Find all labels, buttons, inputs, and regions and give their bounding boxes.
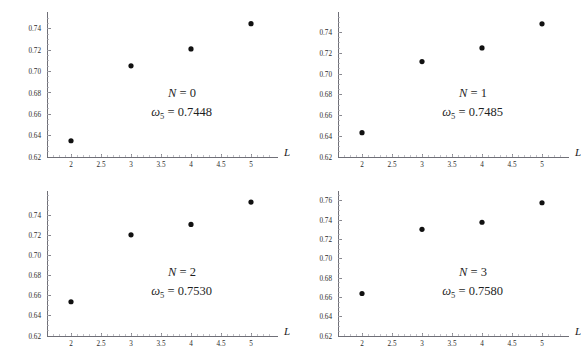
figure-root: 0.620.640.660.680.700.720.7422.533.544.5… [0, 0, 581, 357]
annotation-N-equals: = [467, 265, 480, 279]
data-point-series [68, 199, 253, 304]
y-axis: 0.620.640.660.680.700.720.740.76 [319, 191, 341, 341]
annotation-N-equals: = [176, 86, 189, 100]
y-tick-label: 0.62 [28, 154, 41, 162]
y-tick-label: 0.68 [28, 272, 41, 280]
annotation-omega-value: 0.7530 [178, 284, 212, 298]
y-tick-label: 0.66 [319, 294, 332, 302]
y-tick-label: 0.64 [28, 132, 41, 140]
panel-annotation: N = 1ω5 = 0.7485 [442, 86, 503, 121]
y-tick-label: 0.72 [28, 232, 41, 240]
x-tick-label: 3.5 [448, 161, 457, 169]
panel-annotation: N = 3ω5 = 0.7580 [442, 265, 503, 300]
annotation-omega-equals: = [455, 284, 468, 298]
y-tick-label: 0.62 [319, 333, 332, 341]
annotation-omega-equals: = [164, 284, 177, 298]
annotation-N-value: 2 [190, 265, 196, 279]
data-point [248, 199, 253, 204]
annotation-omega-symbol: ω [151, 105, 160, 119]
y-tick-label: 0.72 [319, 236, 332, 244]
x-tick-label: 4 [480, 340, 484, 348]
annotation-omega-equals: = [455, 105, 468, 119]
annotation-N: N = 1 [458, 86, 487, 100]
y-tick-label: 0.76 [319, 197, 332, 205]
x-axis: 22.533.544.55L [47, 325, 290, 348]
x-tick-label: 3 [420, 161, 424, 169]
y-tick-label: 0.74 [28, 212, 41, 220]
x-tick-label: 2 [69, 161, 73, 169]
x-tick-label: 2 [360, 161, 364, 169]
annotation-omega: ω5 = 0.7530 [151, 284, 212, 300]
x-axis: 22.533.544.55L [338, 146, 581, 169]
x-tick-label: 5 [540, 161, 544, 169]
y-tick-label: 0.64 [319, 133, 332, 141]
annotation-N-value: 0 [190, 86, 196, 100]
x-tick-label: 3.5 [448, 340, 457, 348]
annotation-omega-value: 0.7580 [469, 284, 503, 298]
x-axis-label: L [574, 146, 581, 158]
x-axis-label: L [574, 325, 581, 337]
y-tick-label: 0.74 [28, 25, 41, 33]
y-tick-label: 0.62 [28, 333, 41, 341]
data-point [128, 63, 133, 68]
y-tick-label: 0.66 [28, 111, 41, 119]
data-point-series [68, 21, 253, 143]
y-tick-label: 0.64 [28, 312, 41, 320]
x-tick-label: 5 [540, 340, 544, 348]
data-point [359, 130, 364, 135]
annotation-omega-symbol: ω [442, 105, 451, 119]
x-tick-label: 2.5 [388, 161, 397, 169]
y-tick-label: 0.70 [319, 71, 332, 79]
y-tick-label: 0.74 [319, 29, 332, 37]
scatter-panel-2: 0.620.640.660.680.700.720.7422.533.544.5… [0, 179, 290, 357]
y-tick-label: 0.68 [319, 91, 332, 99]
scatter-panel-3: 0.620.640.660.680.700.720.740.7622.533.5… [291, 179, 581, 357]
data-point [188, 222, 193, 227]
y-tick-label: 0.70 [319, 255, 332, 263]
annotation-N: N = 3 [458, 265, 487, 279]
data-point [419, 227, 424, 232]
panel-annotation: N = 0ω5 = 0.7448 [151, 86, 212, 121]
y-axis: 0.620.640.660.680.700.720.74 [319, 12, 341, 162]
y-tick-label: 0.74 [319, 217, 332, 225]
annotation-omega-equals: = [164, 105, 177, 119]
data-point [479, 45, 484, 50]
annotation-omega-value: 0.7485 [469, 105, 503, 119]
data-point [419, 59, 424, 64]
y-tick-label: 0.72 [28, 47, 41, 55]
x-tick-label: 2 [69, 340, 73, 348]
x-axis-label: L [283, 325, 290, 337]
x-axis-label: L [283, 146, 290, 158]
x-tick-label: 2.5 [388, 340, 397, 348]
data-point [479, 220, 484, 225]
y-tick-label: 0.66 [319, 112, 332, 120]
y-tick-label: 0.70 [28, 252, 41, 260]
annotation-omega: ω5 = 0.7448 [151, 105, 212, 121]
annotation-omega: ω5 = 0.7580 [442, 284, 503, 300]
x-tick-label: 4 [480, 161, 484, 169]
data-point [359, 291, 364, 296]
x-tick-label: 3.5 [157, 161, 166, 169]
annotation-N-value: 3 [481, 265, 487, 279]
y-tick-label: 0.62 [319, 154, 332, 162]
y-axis: 0.620.640.660.680.700.720.74 [28, 191, 50, 341]
data-point [188, 46, 193, 51]
annotation-N-value: 1 [481, 86, 487, 100]
x-tick-label: 4 [189, 161, 193, 169]
x-axis: 22.533.544.55L [47, 146, 290, 169]
x-tick-label: 4.5 [508, 340, 517, 348]
x-tick-label: 4.5 [508, 161, 517, 169]
x-tick-label: 5 [249, 161, 253, 169]
data-point [68, 299, 73, 304]
annotation-N-equals: = [467, 86, 480, 100]
y-tick-label: 0.68 [28, 90, 41, 98]
x-tick-label: 3 [129, 161, 133, 169]
annotation-omega-symbol: ω [442, 284, 451, 298]
x-tick-label: 4.5 [217, 340, 226, 348]
scatter-panel-0: 0.620.640.660.680.700.720.7422.533.544.5… [0, 0, 290, 178]
annotation-N: N = 0 [167, 86, 196, 100]
x-tick-label: 2 [360, 340, 364, 348]
x-axis: 22.533.544.55L [338, 325, 581, 348]
data-point [248, 21, 253, 26]
data-point [128, 232, 133, 237]
